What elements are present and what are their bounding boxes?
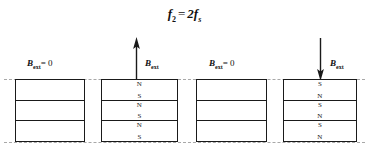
figure-title-formula: f2=2fs bbox=[0, 6, 369, 28]
panel-2-layer-2-bottom-pole: S bbox=[137, 112, 141, 120]
panel-4-layer-2-top-pole: S bbox=[318, 101, 322, 109]
panel-2-layer-1-bottom-pole: S bbox=[137, 92, 141, 100]
panel-2-layer-3-top-pole: N bbox=[137, 121, 142, 129]
panel-4-magnet-block: SNSNSN bbox=[283, 79, 357, 142]
panel-4-layer-2-bottom-pole: N bbox=[317, 112, 322, 120]
panel-3-domain-layer bbox=[197, 121, 266, 141]
panel-2-layer-3-bottom-pole: S bbox=[137, 133, 141, 141]
panel-2-layer-1-top-pole: N bbox=[137, 80, 142, 88]
panel-1-domain-layer bbox=[16, 80, 84, 101]
panel-4-domain-layer: SN bbox=[284, 121, 356, 141]
panel-4-layer-1-bottom-pole: N bbox=[317, 92, 322, 100]
panel-4-layer-1-top-pole: S bbox=[318, 80, 322, 88]
panel-1-field-label: Bext= 0 bbox=[27, 58, 53, 73]
panel-3-zero-value: = 0 bbox=[223, 58, 235, 68]
panel-4-layer-3-bottom-pole: N bbox=[317, 133, 322, 141]
panel-3-domain-layer bbox=[197, 80, 266, 101]
panel-1-domain-layer bbox=[16, 101, 84, 122]
formula-equals-sign: = bbox=[176, 6, 187, 21]
formula-rhs-subscript: s bbox=[198, 15, 201, 24]
panel-4-domain-layer: SN bbox=[284, 80, 356, 101]
panel-2-layer-2-top-pole: N bbox=[137, 101, 142, 109]
magnetic-domain-figure: f2=2fs Bext= 0 Bext Bext= 0 Bext NSNSNSS… bbox=[0, 0, 369, 148]
panel-4-field-label: Bext bbox=[330, 58, 344, 73]
panel-2-up-arrow-icon bbox=[130, 37, 143, 81]
panel-3-domain-layer bbox=[197, 101, 266, 122]
panel-2-magnet-block: NSNSNS bbox=[101, 79, 178, 142]
panel-3-field-subscript: ext bbox=[215, 64, 223, 70]
panel-2-domain-layer: NS bbox=[102, 101, 177, 122]
panel-2-field-subscript: ext bbox=[151, 64, 159, 70]
panel-1-zero-value: = 0 bbox=[41, 58, 53, 68]
panel-1-field-subscript: ext bbox=[33, 64, 41, 70]
panel-2-field-label: Bext bbox=[145, 58, 159, 73]
panel-3-field-label: Bext= 0 bbox=[209, 58, 235, 73]
panel-4-field-subscript: ext bbox=[336, 64, 344, 70]
panel-3-magnet-block bbox=[196, 79, 267, 142]
bottom-alignment-guide-line bbox=[4, 142, 365, 143]
panel-4-down-arrow-icon bbox=[314, 37, 327, 81]
panel-1-domain-layer bbox=[16, 121, 84, 141]
panel-4-layer-3-top-pole: S bbox=[318, 121, 322, 129]
panel-1-magnet-block bbox=[15, 79, 85, 142]
panel-2-domain-layer: NS bbox=[102, 80, 177, 101]
panel-4-domain-layer: SN bbox=[284, 101, 356, 122]
panel-2-domain-layer: NS bbox=[102, 121, 177, 141]
